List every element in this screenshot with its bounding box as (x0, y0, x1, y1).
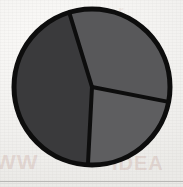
bottom-rule-line (0, 181, 183, 182)
pie-chart-svg (0, 0, 183, 187)
bottom-rule-line-secondary (0, 183, 183, 184)
pie-chart-figure: r WW IDEA (0, 0, 183, 187)
